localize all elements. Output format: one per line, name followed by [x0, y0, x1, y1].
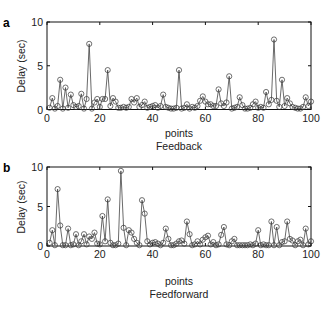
panel-b: b Delay (sec) 0204060801000510 points Fe…	[3, 161, 320, 300]
x-axis-label-a: points	[165, 127, 193, 139]
panel-label-a: a	[3, 16, 10, 30]
x-tick-label: 100	[302, 112, 320, 124]
figure: a Delay (sec) 0204060801000510 points Fe…	[0, 0, 336, 311]
y-tick-label: 0	[37, 240, 43, 252]
y-axis-label-b: Delay (sec)	[15, 180, 27, 233]
subtitle-a: Feedback	[156, 140, 203, 152]
x-tick-label: 40	[147, 112, 159, 124]
y-tick-label: 0	[37, 104, 43, 116]
axes-a: 0204060801000510	[31, 16, 320, 124]
panel-a: a Delay (sec) 0204060801000510 points Fe…	[3, 16, 320, 152]
x-tick-label: 20	[94, 248, 106, 260]
x-tick-label: 100	[302, 248, 320, 260]
panel-label-b: b	[3, 161, 10, 175]
x-tick-label: 80	[252, 112, 264, 124]
y-tick-label: 5	[37, 201, 43, 213]
x-axis-label-b: points	[165, 275, 193, 287]
x-tick-label: 60	[200, 112, 212, 124]
y-tick-label: 10	[31, 16, 43, 28]
x-tick-label: 0	[44, 112, 50, 124]
x-tick-label: 80	[252, 248, 264, 260]
x-tick-label: 0	[44, 248, 50, 260]
x-tick-label: 60	[200, 248, 212, 260]
y-tick-label: 5	[37, 60, 43, 72]
x-tick-label: 40	[147, 248, 159, 260]
y-tick-label: 10	[31, 161, 43, 173]
x-tick-label: 20	[94, 112, 106, 124]
y-axis-label-a: Delay (sec)	[15, 39, 27, 92]
axes-b: 0204060801000510	[31, 161, 320, 260]
subtitle-b: Feedforward	[150, 288, 209, 300]
